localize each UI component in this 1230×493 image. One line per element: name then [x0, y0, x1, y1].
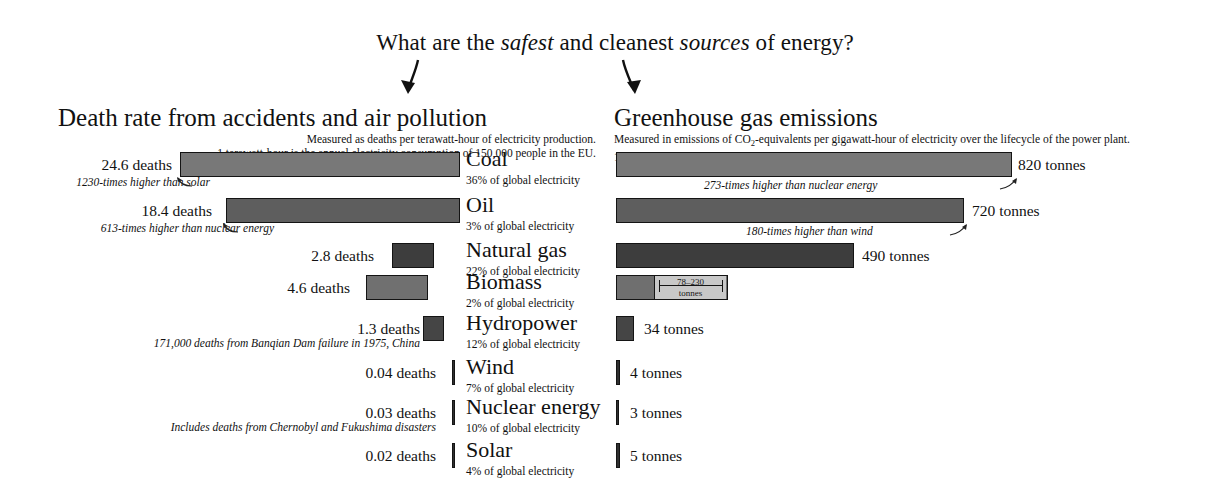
chart-row-biomass: 4.6 deaths Biomass 2% of global electric… — [0, 275, 1230, 321]
source-name-nuclear-energy: Nuclear energy — [466, 396, 606, 418]
death-bar-coal — [180, 152, 460, 177]
note-hook-emission-coal — [998, 178, 1018, 194]
emission-bar-hydropower — [616, 316, 634, 341]
right-panel-subtitle-1: Measured in emissions of CO2-equivalents… — [614, 132, 1214, 150]
death-bar-natural-gas — [392, 243, 434, 268]
arrow-to-left-panel — [390, 58, 440, 98]
death-note-hydropower: 171,000 deaths from Banqian Dam failure … — [154, 337, 420, 349]
emission-bar-nuclear-energy — [616, 400, 619, 425]
death-value-natural-gas: 2.8 deaths — [311, 247, 374, 265]
death-note-oil: 613-times higher than nuclear energy — [101, 222, 274, 234]
right-row-oil: 720 tonnes 180-times higher than wind — [616, 198, 1216, 244]
right-row-hydropower: 34 tonnes — [616, 316, 1216, 362]
death-note-nuclear-energy: Includes deaths from Chernobyl and Fukus… — [171, 421, 436, 433]
emission-value-wind: 4 tonnes — [630, 364, 682, 382]
source-share-nuclear-energy: 10% of global electricity — [466, 421, 606, 435]
emission-value-hydropower: 34 tonnes — [644, 320, 704, 338]
right-row-nuclear-energy: 3 tonnes — [616, 400, 1216, 446]
chart-row-solar: 0.02 deaths Solar 4% of global electrici… — [0, 443, 1230, 489]
emission-value-natural-gas: 490 tonnes — [862, 247, 930, 265]
chart-row-hydropower: 1.3 deaths 171,000 deaths from Banqian D… — [0, 316, 1230, 362]
emission-value-coal: 820 tonnes — [1018, 156, 1086, 174]
chart-row-coal: 24.6 deaths 1230-times higher than solar… — [0, 152, 1230, 198]
death-bar-solar — [452, 443, 455, 468]
source-share-solar: 4% of global electricity — [466, 464, 606, 478]
source-share-oil: 3% of global electricity — [466, 219, 606, 233]
emission-bar-natural-gas — [616, 243, 854, 268]
source-share-biomass: 2% of global electricity — [466, 296, 606, 310]
emission-value-oil: 720 tonnes — [972, 202, 1040, 220]
left-row-coal: 24.6 deaths 1230-times higher than solar — [0, 152, 460, 198]
emission-bar-wind — [616, 360, 620, 385]
source-name-hydropower: Hydropower — [466, 312, 606, 334]
right-subtitle-text-a: Measured in emissions of CO — [614, 133, 751, 145]
death-bar-wind — [452, 360, 455, 385]
emission-bar-solar — [616, 443, 620, 468]
left-row-oil: 18.4 deaths 613-times higher than nuclea… — [0, 198, 460, 244]
chart-row-nuclear-energy: 0.03 deaths Includes deaths from Chernob… — [0, 400, 1230, 446]
death-bar-oil — [226, 198, 460, 223]
source-label-solar: Solar 4% of global electricity — [466, 439, 606, 478]
headline-part-3: of energy? — [750, 30, 854, 55]
source-share-wind: 7% of global electricity — [466, 381, 606, 395]
left-panel-title: Death rate from accidents and air pollut… — [58, 104, 604, 132]
source-name-natural-gas: Natural gas — [466, 239, 606, 261]
range-cap-right — [722, 280, 723, 292]
left-row-solar: 0.02 deaths — [0, 443, 460, 489]
note-hook-oil — [222, 222, 240, 236]
emission-range-label-biomass: 78–230 — [677, 277, 704, 287]
right-row-biomass: 78–230 tonnes — [616, 275, 1216, 321]
source-label-wind: Wind 7% of global electricity — [466, 356, 606, 395]
emission-range-biomass: 78–230 tonnes — [654, 276, 726, 299]
headline-part-2: and cleanest — [554, 30, 680, 55]
left-row-biomass: 4.6 deaths — [0, 275, 460, 321]
death-value-oil: 18.4 deaths — [141, 202, 212, 220]
source-label-hydropower: Hydropower 12% of global electricity — [466, 312, 606, 351]
emission-bar-coal — [616, 152, 1012, 177]
headline-emphasis-sources: sources — [680, 30, 750, 55]
right-subtitle-text-b: -equivalents per gigawatt-hour of electr… — [755, 133, 1130, 145]
death-bar-biomass — [366, 275, 428, 300]
headline-emphasis-safest: safest — [501, 30, 554, 55]
source-name-solar: Solar — [466, 439, 606, 461]
death-value-solar: 0.02 deaths — [365, 447, 436, 465]
source-label-coal: Coal 36% of global electricity — [466, 148, 606, 187]
death-value-biomass: 4.6 deaths — [287, 279, 350, 297]
left-panel-subtitle-1: Measured as deaths per terawatt-hour of … — [58, 132, 604, 146]
emission-range-unit-biomass: tonnes — [679, 288, 703, 298]
note-hook-emission-oil — [948, 224, 968, 240]
infographic-canvas: What are the safest and cleanest sources… — [0, 0, 1230, 493]
emission-value-nuclear-energy: 3 tonnes — [630, 404, 682, 422]
death-bar-nuclear-energy — [452, 400, 455, 425]
death-value-coal: 24.6 deaths — [101, 156, 172, 174]
right-row-coal: 820 tonnes 273-times higher than nuclear… — [616, 152, 1216, 198]
source-name-coal: Coal — [466, 148, 606, 170]
emission-note-oil: 180-times higher than wind — [746, 225, 873, 237]
right-panel-title: Greenhouse gas emissions — [614, 104, 1214, 132]
arrow-to-right-panel — [615, 58, 665, 98]
death-value-wind: 0.04 deaths — [365, 364, 436, 382]
source-label-nuclear-energy: Nuclear energy 10% of global electricity — [466, 396, 606, 435]
range-cap-left — [659, 280, 660, 292]
chart-row-oil: 18.4 deaths 613-times higher than nuclea… — [0, 198, 1230, 244]
source-name-biomass: Biomass — [466, 271, 606, 293]
left-row-hydropower: 1.3 deaths 171,000 deaths from Banqian D… — [0, 316, 460, 362]
death-value-hydropower: 1.3 deaths — [357, 320, 420, 338]
emission-bar-oil — [616, 198, 964, 223]
left-row-nuclear-energy: 0.03 deaths Includes deaths from Chernob… — [0, 400, 460, 446]
source-name-oil: Oil — [466, 194, 606, 216]
headline-part-1: What are the — [376, 30, 501, 55]
source-label-biomass: Biomass 2% of global electricity — [466, 271, 606, 310]
source-label-oil: Oil 3% of global electricity — [466, 194, 606, 233]
page-title: What are the safest and cleanest sources… — [0, 30, 1230, 56]
source-name-wind: Wind — [466, 356, 606, 378]
source-share-coal: 36% of global electricity — [466, 173, 606, 187]
source-share-hydropower: 12% of global electricity — [466, 337, 606, 351]
right-row-solar: 5 tonnes — [616, 443, 1216, 489]
emission-value-solar: 5 tonnes — [630, 447, 682, 465]
emission-note-coal: 273-times higher than nuclear energy — [704, 179, 877, 191]
note-hook-coal — [176, 176, 194, 190]
death-value-nuclear-energy: 0.03 deaths — [365, 404, 436, 422]
death-bar-hydropower — [423, 316, 444, 341]
